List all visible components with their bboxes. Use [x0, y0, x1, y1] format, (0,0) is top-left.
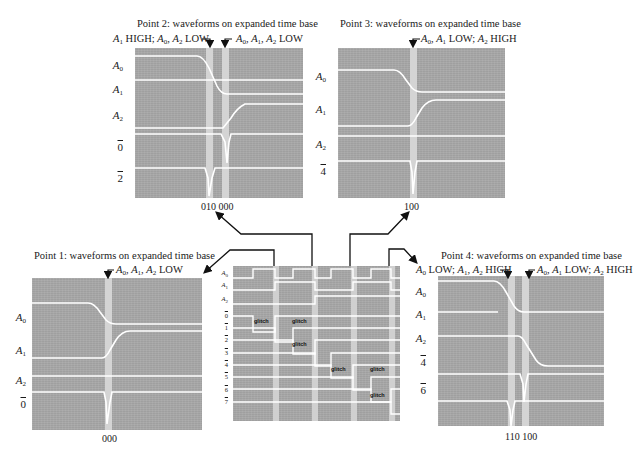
arrow-to-point4	[389, 249, 416, 266]
point2-label-0bar: 0	[103, 141, 123, 153]
point4-tick-label: 110 100	[505, 431, 537, 442]
point3-title: Point 3: waveforms on expanded time base	[340, 18, 521, 29]
center-label-2bar: 2	[218, 336, 228, 343]
glitch-label: glitch	[331, 366, 346, 372]
center-overview-screen: glitch glitch glitch glitch glitch glitc…	[233, 266, 400, 421]
glitch-label: glitch	[370, 392, 385, 398]
point2-right-pointer-arrow	[225, 39, 232, 46]
point3-scope-screen	[338, 48, 505, 198]
point4-label-a1: A1	[406, 308, 426, 322]
point3-label-a2: A2	[306, 138, 326, 152]
point2-annotation-right: A0, A1, A2 LOW	[236, 33, 303, 46]
point2-annotation-left: A1 HIGH; A0, A2 LOW	[113, 33, 209, 46]
point2-scope-screen	[135, 48, 303, 198]
point3-annotation: A0, A1 LOW; A2 HIGH	[421, 33, 517, 46]
center-label-3bar: 3	[218, 349, 228, 356]
center-label-4bar: 4	[218, 361, 228, 368]
center-label-5bar: 5	[218, 373, 228, 380]
point3-tick-label: 100	[404, 201, 419, 212]
arrow-to-point3	[350, 213, 408, 266]
center-label-a1: A1	[218, 281, 228, 290]
point4-label-a0: A0	[406, 285, 426, 299]
point2-label-a1: A1	[103, 83, 123, 97]
point3-label-a0: A0	[306, 70, 326, 84]
center-label-1bar: 1	[218, 324, 228, 331]
point1-tick-label: 000	[102, 433, 117, 444]
point1-title: Point 1: waveforms on expanded time base	[34, 250, 215, 261]
center-label-7bar: 7	[218, 398, 228, 405]
point2-label-a2: A2	[103, 109, 123, 123]
glitch-label: glitch	[292, 341, 307, 347]
glitch-label: glitch	[370, 366, 385, 372]
point3-label-4bar: 4	[306, 165, 326, 177]
glitch-label: glitch	[292, 318, 307, 324]
center-label-a2: A2	[218, 295, 228, 304]
point4-scope-screen	[438, 276, 604, 426]
center-label-a0: A0	[218, 269, 228, 278]
glitch-label: glitch	[254, 318, 269, 324]
center-label-0bar: 0	[218, 312, 228, 319]
point1-label-a2: A2	[6, 374, 26, 388]
point1-label-a0: A0	[6, 311, 26, 325]
point2-label-a0: A0	[103, 59, 123, 73]
point4-label-a2: A2	[406, 332, 426, 346]
point1-annotation: A0, A1, A2 LOW	[116, 264, 183, 277]
point2-tick-label: 010 000	[201, 201, 234, 212]
point2-label-2bar: 2	[103, 172, 123, 184]
point1-scope-screen	[32, 278, 202, 430]
point3-label-a1: A1	[306, 103, 326, 117]
arrow-to-point2	[217, 213, 312, 266]
point4-label-6bar: 6	[406, 384, 426, 396]
point1-label-0bar: 0	[6, 398, 26, 410]
point2-title: Point 2: waveforms on expanded time base	[137, 18, 318, 29]
point1-pointer-arrow	[108, 270, 114, 277]
point3-pointer-arrow	[413, 39, 420, 46]
point1-label-a1: A1	[6, 344, 26, 358]
point4-label-4bar: 4	[406, 356, 426, 368]
center-label-6bar: 6	[218, 386, 228, 393]
point4-title: Point 4: waveforms on expanded time base	[441, 250, 622, 261]
